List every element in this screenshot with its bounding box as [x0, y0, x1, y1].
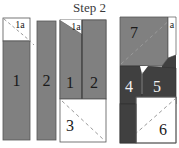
label-1a-left: 1a [15, 19, 25, 30]
label-7: 7 [130, 24, 138, 41]
right-left-column-overlay [120, 104, 136, 143]
label-1-middle: 1 [66, 74, 74, 91]
label-6: 6 [159, 121, 167, 138]
right-group: 7 a 4 5 6 [120, 17, 176, 143]
label-5: 5 [153, 78, 161, 95]
page-title: Step 2 [73, 0, 106, 15]
label-4: 4 [125, 78, 133, 95]
label-1a-middle: 1a [71, 21, 81, 32]
piece-1-left [3, 41, 30, 140]
label-2-middle: 2 [90, 74, 98, 91]
label-2-left: 2 [43, 72, 51, 89]
left-group: 1a 1 2 [3, 18, 56, 140]
step-2-figure: Step 2 1a 1 2 1 1a 2 3 [0, 0, 179, 148]
label-a-right: a [170, 19, 175, 30]
middle-group: 1 1a 2 3 [60, 20, 106, 142]
label-1-left: 1 [13, 72, 21, 89]
label-3-middle: 3 [66, 117, 74, 134]
